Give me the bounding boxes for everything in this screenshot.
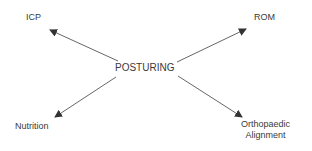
node-posturing: POSTURING (115, 62, 174, 73)
node-orthopaedic-line2: Alignment (241, 130, 290, 141)
arrow-to-orthopaedic (178, 76, 242, 117)
node-orthopaedic-line1: Orthopaedic (241, 119, 290, 130)
arrow-to-nutrition (55, 77, 116, 117)
arrow-to-rom (177, 29, 246, 62)
node-orthopaedic-alignment: Orthopaedic Alignment (241, 119, 290, 141)
node-nutrition: Nutrition (15, 121, 49, 132)
node-rom: ROM (254, 12, 275, 23)
node-icp: ICP (26, 12, 41, 23)
arrow-to-icp (50, 30, 118, 61)
